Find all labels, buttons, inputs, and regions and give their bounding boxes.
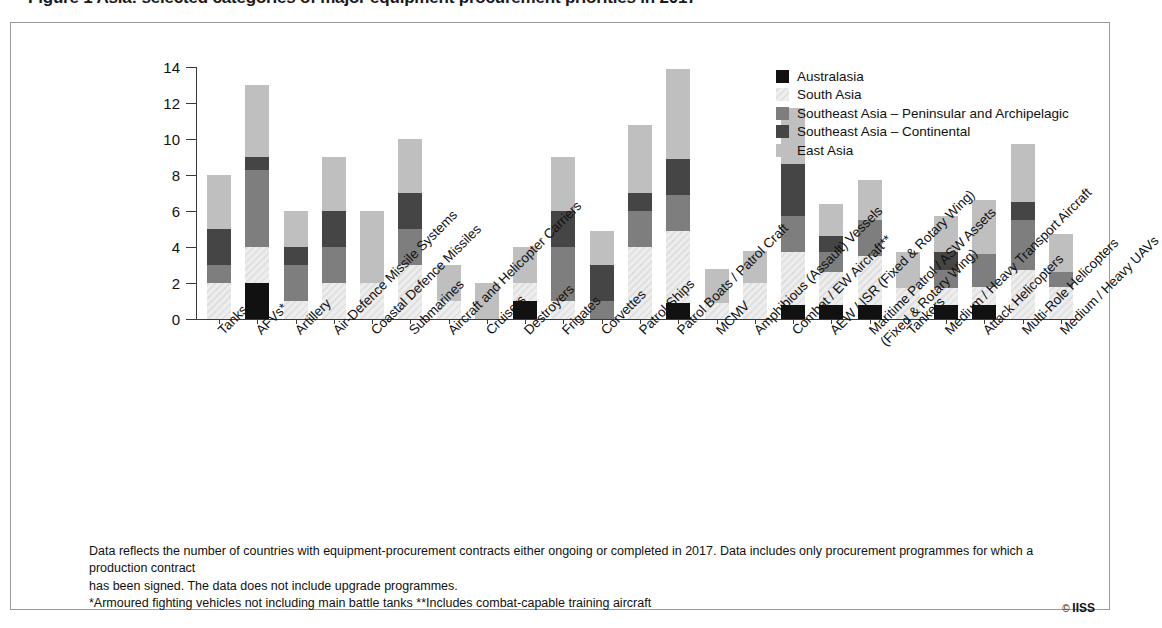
bar-segment[interactable]: [245, 85, 269, 157]
legend-swatch-icon: [776, 125, 789, 138]
footnote-line: has been signed. The data does not inclu…: [89, 578, 1089, 595]
legend-label: Southeast Asia – Peninsular and Archipel…: [797, 106, 1069, 121]
y-axis-tick-label: 2: [172, 275, 180, 292]
y-axis-tick-label: 4: [172, 239, 180, 256]
bar-segment[interactable]: [207, 265, 231, 283]
bar-segment[interactable]: [398, 193, 422, 229]
y-axis-tick: 12: [186, 103, 197, 104]
bar-segment[interactable]: [1011, 202, 1035, 220]
bar-segment[interactable]: [666, 159, 690, 195]
footnote: Data reflects the number of countries wi…: [89, 543, 1089, 612]
footnote-line: *Armoured fighting vehicles not includin…: [89, 595, 1089, 612]
credit-label: IISS: [1072, 601, 1095, 615]
bar-segment[interactable]: [819, 204, 843, 236]
y-axis-tick-label: 8: [172, 167, 180, 184]
y-axis-tick-label: 12: [163, 95, 180, 112]
legend: AustralasiaSouth AsiaSoutheast Asia – Pe…: [776, 69, 1069, 162]
bar-segment[interactable]: [245, 170, 269, 247]
bar-segment[interactable]: [590, 231, 614, 265]
x-axis-line: [196, 319, 1077, 320]
bar-segment[interactable]: [360, 211, 384, 283]
y-axis-tick: 0: [186, 319, 197, 320]
bar-stack[interactable]: [590, 67, 614, 319]
bar-segment[interactable]: [322, 211, 346, 247]
y-axis-tick: 8: [186, 175, 197, 176]
bar-segment[interactable]: [322, 157, 346, 211]
bar-segment[interactable]: [628, 211, 652, 247]
bar-segment[interactable]: [284, 247, 308, 265]
bar-stack[interactable]: [284, 67, 308, 319]
y-axis-tick: 10: [186, 139, 197, 140]
legend-item[interactable]: South Asia: [776, 88, 1069, 102]
bar-stack[interactable]: [245, 67, 269, 319]
bar-segment[interactable]: [207, 229, 231, 265]
bar-segment[interactable]: [284, 265, 308, 301]
copyright-icon: ©: [1062, 603, 1072, 614]
bar-segment[interactable]: [245, 247, 269, 283]
legend-item[interactable]: Southeast Asia – Continental: [776, 125, 1069, 139]
footnote-line: Data reflects the number of countries wi…: [89, 543, 1089, 578]
bar-segment[interactable]: [284, 211, 308, 247]
iiss-credit: © IISS: [1062, 601, 1095, 615]
figure-title: Figure 1 Asia: selected categories of ma…: [28, 0, 1088, 12]
bar-segment[interactable]: [245, 157, 269, 170]
legend-swatch-icon: [776, 144, 789, 157]
legend-item[interactable]: Southeast Asia – Peninsular and Archipel…: [776, 106, 1069, 120]
legend-item[interactable]: East Asia: [776, 143, 1069, 157]
y-axis-tick: 14: [186, 67, 197, 68]
bar-stack[interactable]: [513, 67, 537, 319]
bar-segment[interactable]: [628, 125, 652, 193]
legend-label: East Asia: [797, 143, 853, 158]
y-axis-tick: 4: [186, 247, 197, 248]
legend-swatch-icon: [776, 107, 789, 120]
bar-stack[interactable]: [743, 67, 767, 319]
y-axis-tick-label: 0: [172, 311, 180, 328]
bar-stack[interactable]: [628, 67, 652, 319]
bar-segment[interactable]: [628, 193, 652, 211]
bar-stack[interactable]: [551, 67, 575, 319]
bar-stack[interactable]: [322, 67, 346, 319]
legend-label: Australasia: [797, 69, 864, 84]
bar-segment[interactable]: [781, 164, 805, 216]
y-axis-tick-label: 6: [172, 203, 180, 220]
y-axis-tick: 6: [186, 211, 197, 212]
y-axis-tick-label: 10: [163, 131, 180, 148]
chart-frame: Number of CountriesPurchasing 0246810121…: [10, 22, 1110, 610]
plot-area: Number of CountriesPurchasing 0246810121…: [11, 23, 1111, 523]
legend-label: Southeast Asia – Continental: [797, 124, 970, 139]
y-axis-tick-label: 14: [163, 59, 180, 76]
legend-swatch-icon: [776, 88, 789, 101]
y-axis-tick: 2: [186, 283, 197, 284]
bar-segment[interactable]: [207, 175, 231, 229]
legend-swatch-icon: [776, 70, 789, 83]
bar-segment[interactable]: [666, 69, 690, 159]
bar-segment[interactable]: [322, 247, 346, 283]
legend-label: South Asia: [797, 87, 862, 102]
legend-item[interactable]: Australasia: [776, 69, 1069, 83]
bar-stack[interactable]: [207, 67, 231, 319]
bar-segment[interactable]: [666, 195, 690, 231]
bar-segment[interactable]: [398, 139, 422, 193]
